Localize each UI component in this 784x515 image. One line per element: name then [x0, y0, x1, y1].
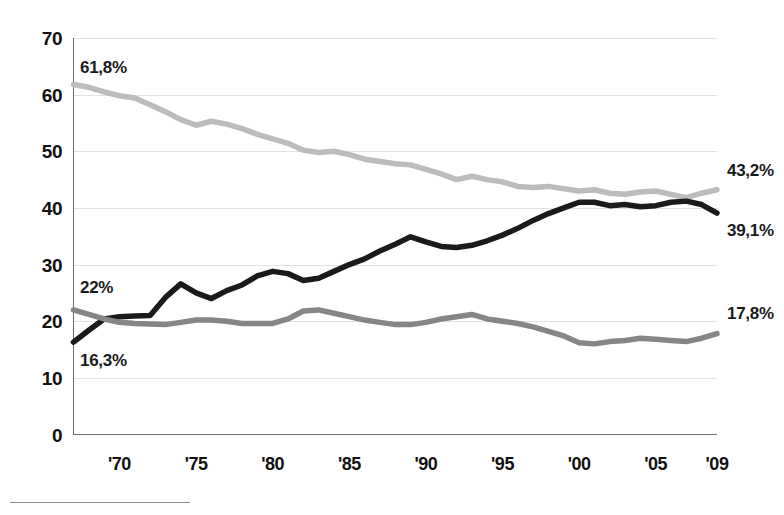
line-chart-figure: 010203040506070 '70'75'80'85'90'95'00'05… [0, 0, 784, 515]
annotation-light-gray-start: 61,8% [80, 58, 127, 77]
y-axis-tick-label: 20 [42, 311, 62, 332]
x-axis-tick-label: '05 [644, 454, 667, 474]
annotation-black-end: 39,1% [727, 221, 774, 240]
series-light-gray [74, 84, 718, 197]
y-axis-tick-label: 60 [42, 85, 62, 106]
y-axis-tick-label: 40 [42, 198, 62, 219]
x-axis-tick-label: '00 [568, 454, 591, 474]
y-axis-tick-labels: 010203040506070 [42, 28, 62, 446]
y-axis-tick-label: 50 [42, 141, 62, 162]
y-axis-tick-label: 30 [42, 255, 62, 276]
y-axis-tick-label: 70 [42, 28, 62, 49]
x-axis-tick-label: '85 [338, 454, 361, 474]
y-axis-tick-label: 10 [42, 368, 62, 389]
x-axis-tick-label: '75 [185, 454, 208, 474]
x-axis-tick-labels: '70'75'80'85'90'95'00'05'09 [108, 454, 729, 474]
x-axis-tick-label: '80 [261, 454, 284, 474]
y-axis-tick-label: 0 [52, 425, 62, 446]
x-axis-tick-label: '09 [706, 454, 729, 474]
annotation-mid-gray-end: 17,8% [727, 304, 774, 323]
annotation-mid-gray-start: 22% [80, 278, 113, 297]
x-axis-tick-label: '90 [414, 454, 437, 474]
x-axis-tick-label: '95 [491, 454, 514, 474]
annotation-light-gray-end: 43,2% [727, 161, 774, 180]
series-mid-gray [74, 310, 718, 344]
annotation-black-start: 16,3% [80, 351, 127, 370]
x-axis-tick-label: '70 [108, 454, 131, 474]
gridline-group [74, 39, 718, 379]
chart-plot-area: 010203040506070 '70'75'80'85'90'95'00'05… [0, 0, 784, 515]
data-series-group [74, 84, 718, 343]
